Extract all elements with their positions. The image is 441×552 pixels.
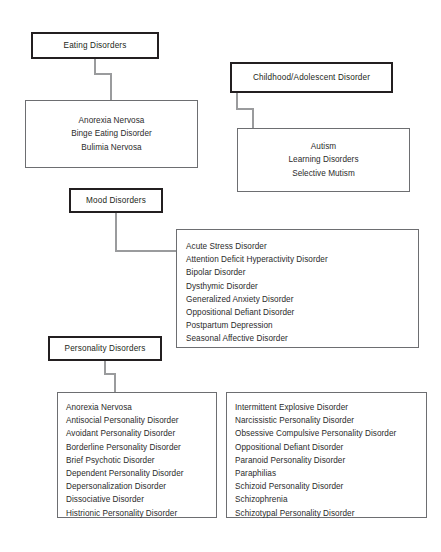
list-box-personality-disorders-right[interactable]: Intermittent Explosive Disorder Narcissi… <box>226 392 427 518</box>
list-item: Anorexia Nervosa <box>71 114 152 127</box>
list-item: Attention Deficit Hyperactivity Disorder <box>186 253 418 266</box>
category-box-childhood-adolescent-disorder[interactable]: Childhood/Adolescent Disorder <box>230 62 393 93</box>
connector-mood-horizontal <box>115 250 177 252</box>
connector-eating-vertical-lower <box>110 73 112 101</box>
list-item: Binge Eating Disorder <box>71 127 152 140</box>
category-box-personality-disorders[interactable]: Personality Disorders <box>48 336 162 361</box>
connector-personality-vertical-lower <box>114 373 116 393</box>
connector-eating-horizontal <box>94 73 111 75</box>
list-item: Intermittent Explosive Disorder <box>235 401 426 414</box>
list-items-childhood-adolescent-disorder: Autism Learning Disorders Selective Muti… <box>288 140 358 180</box>
category-box-eating-disorders[interactable]: Eating Disorders <box>31 32 159 59</box>
list-box-childhood-adolescent-disorder[interactable]: Autism Learning Disorders Selective Muti… <box>237 128 410 192</box>
list-box-mood-disorders[interactable]: Acute Stress Disorder Attention Deficit … <box>176 229 419 348</box>
list-items-mood-disorders: Acute Stress Disorder Attention Deficit … <box>186 240 418 346</box>
list-items-eating-disorders: Anorexia Nervosa Binge Eating Disorder B… <box>71 114 152 154</box>
list-item: Obsessive Compulsive Personality Disorde… <box>235 427 426 440</box>
list-item: Postpartum Depression <box>186 319 418 332</box>
list-box-personality-disorders-left[interactable]: Anorexia Nervosa Antisocial Personality … <box>57 392 217 518</box>
list-item: Avoidant Personality Disorder <box>66 427 216 440</box>
list-item: Antisocial Personality Disorder <box>66 414 216 427</box>
list-item: Narcissistic Personality Disorder <box>235 414 426 427</box>
connector-childhood-vertical-upper <box>236 93 238 109</box>
list-item: Bipolar Disorder <box>186 266 418 279</box>
list-item: Histrionic Personality Disorder <box>66 507 216 520</box>
list-item: Dependent Personality Disorder <box>66 467 216 480</box>
flowchart-canvas: Eating Disorders Anorexia Nervosa Binge … <box>0 0 441 552</box>
connector-eating-vertical-upper <box>94 59 96 74</box>
list-item: Generalized Anxiety Disorder <box>186 293 418 306</box>
list-items-personality-disorders-left: Anorexia Nervosa Antisocial Personality … <box>66 401 216 520</box>
category-label-eating-disorders: Eating Disorders <box>64 41 127 50</box>
category-label-childhood-adolescent-disorder: Childhood/Adolescent Disorder <box>253 73 370 82</box>
list-item: Depersonalization Disorder <box>66 480 216 493</box>
list-item: Dissociative Disorder <box>66 493 216 506</box>
connector-childhood-vertical-lower <box>252 108 254 129</box>
list-item: Bulimia Nervosa <box>71 141 152 154</box>
list-item: Anorexia Nervosa <box>66 401 216 414</box>
connector-mood-vertical <box>115 213 117 251</box>
list-item: Oppositional Defiant Disorder <box>186 306 418 319</box>
list-item: Autism <box>288 140 358 153</box>
list-item: Brief Psychotic Disorder <box>66 454 216 467</box>
list-items-personality-disorders-right: Intermittent Explosive Disorder Narcissi… <box>235 401 426 520</box>
category-box-mood-disorders[interactable]: Mood Disorders <box>69 188 163 213</box>
list-item: Paranoid Personality Disorder <box>235 454 426 467</box>
list-item: Schizoid Personality Disorder <box>235 480 426 493</box>
list-item: Selective Mutism <box>288 167 358 180</box>
list-item: Oppositional Defiant Disorder <box>235 441 426 454</box>
list-item: Dysthymic Disorder <box>186 280 418 293</box>
list-item: Schizotypal Personality Disorder <box>235 507 426 520</box>
list-item: Acute Stress Disorder <box>186 240 418 253</box>
category-label-mood-disorders: Mood Disorders <box>86 196 146 205</box>
list-item: Learning Disorders <box>288 153 358 166</box>
list-item: Paraphilias <box>235 467 426 480</box>
list-box-eating-disorders[interactable]: Anorexia Nervosa Binge Eating Disorder B… <box>25 100 198 168</box>
list-item: Borderline Personality Disorder <box>66 441 216 454</box>
category-label-personality-disorders: Personality Disorders <box>65 344 146 353</box>
list-item: Schizophrenia <box>235 493 426 506</box>
list-item: Seasonal Affective Disorder <box>186 332 418 345</box>
connector-childhood-horizontal <box>236 108 253 110</box>
